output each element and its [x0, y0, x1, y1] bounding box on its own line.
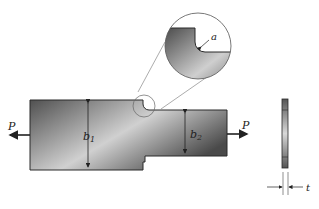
load-left-label: P: [7, 120, 16, 133]
thickness-label: t: [306, 182, 311, 193]
fillet-radius-label: a: [211, 31, 217, 42]
stepped-bar-diagram: a b1 b2 P P t: [0, 0, 319, 209]
leader-line-left: [138, 42, 165, 92]
radius-indicator: [201, 40, 209, 47]
load-right-label: P: [241, 119, 250, 132]
leader-line-right: [161, 77, 207, 109]
side-view: [282, 99, 288, 168]
